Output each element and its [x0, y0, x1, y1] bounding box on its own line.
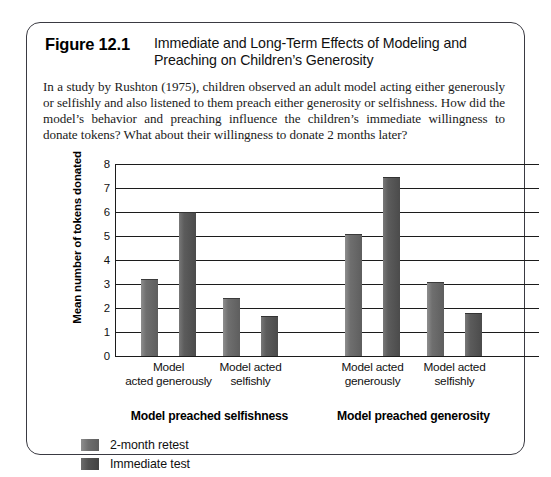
x-axis-labels: Modelacted generouslyModel actedselfishl…: [115, 359, 539, 393]
y-axis-tick: 6: [104, 206, 110, 218]
legend-item: 2-month retest: [81, 435, 190, 454]
figure-title: Immediate and Long-Term Effects of Model…: [154, 35, 494, 69]
y-axis-tick: 2: [104, 302, 110, 314]
chart-legend: 2-month retestImmediate test: [81, 435, 190, 473]
x-axis-label-line: selfishly: [191, 375, 311, 389]
figure-box: Figure 12.1 Immediate and Long-Term Effe…: [26, 22, 525, 455]
y-axis-title: Mean number of tokens donated: [70, 143, 83, 333]
figure-header: Figure 12.1 Immediate and Long-Term Effe…: [45, 35, 508, 69]
bar: [141, 279, 158, 356]
y-axis-tick: 7: [104, 182, 110, 194]
x-axis-label-line: selfishly: [395, 375, 515, 389]
legend-item: Immediate test: [81, 454, 190, 473]
bar-chart: Mean number of tokens donated 012345678 …: [43, 159, 509, 389]
y-axis-tick: 5: [104, 230, 110, 242]
gridline: [115, 188, 539, 189]
y-axis-tick: 3: [104, 278, 110, 290]
x-axis-label: Model actedselfishly: [395, 361, 515, 388]
group-label: Model preached generosity: [304, 409, 524, 423]
bar: [261, 316, 278, 356]
gridline: [115, 356, 539, 357]
figure-caption: In a study by Rushton (1975), children o…: [43, 79, 505, 143]
legend-label: Immediate test: [110, 457, 190, 471]
bar: [223, 298, 240, 356]
gridline: [115, 164, 539, 165]
bar: [345, 234, 362, 356]
legend-swatch: [81, 439, 99, 451]
bar: [465, 313, 482, 356]
x-axis-label: Model actedselfishly: [191, 361, 311, 388]
plot-area: 012345678: [115, 164, 539, 356]
y-axis-tick: 1: [104, 326, 110, 338]
group-label: Model preached selfishness: [100, 409, 320, 423]
x-axis-label-line: Model acted: [395, 361, 515, 375]
bar: [179, 212, 196, 356]
legend-label: 2-month retest: [110, 438, 189, 452]
bar: [427, 282, 444, 356]
y-axis-tick: 4: [104, 254, 110, 266]
y-axis-tick: 8: [104, 158, 110, 170]
figure-number: Figure 12.1: [45, 35, 130, 54]
group-labels: Model preached selfishnessModel preached…: [43, 409, 509, 427]
bar: [383, 177, 400, 356]
x-axis-label-line: Model acted: [191, 361, 311, 375]
legend-swatch: [81, 458, 99, 470]
